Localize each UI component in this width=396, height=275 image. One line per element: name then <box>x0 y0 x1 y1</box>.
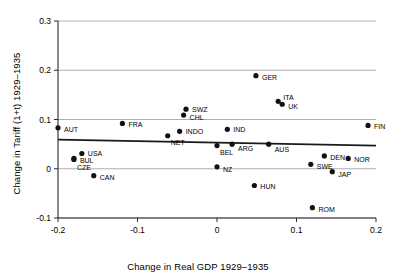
data-point-marker <box>214 164 219 169</box>
x-tick-label: 0.2 <box>370 225 382 235</box>
data-point-marker <box>183 107 188 112</box>
data-point-label: CZE <box>77 164 91 171</box>
data-point-marker <box>252 183 257 188</box>
x-tick-label: -0.2 <box>51 225 66 235</box>
data-point-label: NZ <box>223 166 233 173</box>
data-point-marker <box>230 142 235 147</box>
data-point-marker <box>91 173 96 178</box>
data-point-label: NOR <box>354 156 370 163</box>
data-point-marker <box>165 133 170 138</box>
y-tick-label: -0.1 <box>36 213 51 223</box>
data-point-label: FRA <box>128 121 142 128</box>
data-point-marker <box>365 123 370 128</box>
data-point-label: ARG <box>238 145 253 152</box>
data-point-marker <box>71 157 76 162</box>
data-point-marker <box>266 142 271 147</box>
data-point-label: JAP <box>338 171 351 178</box>
data-point-label: IND <box>233 126 245 133</box>
data-point-label: GER <box>262 74 277 81</box>
data-point-marker <box>181 112 186 117</box>
data-point-marker <box>308 162 313 167</box>
x-tick-label: 0 <box>215 225 220 235</box>
data-point-marker <box>214 143 219 148</box>
data-point-marker <box>120 121 125 126</box>
data-point-label: ROM <box>318 206 335 213</box>
data-point-marker <box>322 153 327 158</box>
x-tick-label: -0.1 <box>130 225 145 235</box>
data-point-marker <box>346 156 351 161</box>
data-point-label: DEN <box>330 154 345 161</box>
x-axis-title: Change in Real GDP 1929–1935 <box>0 261 396 272</box>
y-tick-label: 0 <box>46 164 51 174</box>
data-point-label: SWZ <box>192 106 208 113</box>
x-tick-label: 0.1 <box>291 225 303 235</box>
data-point-marker <box>55 125 60 130</box>
data-point-label: AUS <box>275 146 290 153</box>
y-tick-label: 0.2 <box>39 65 51 75</box>
data-point-label: ITA <box>283 94 294 101</box>
data-point-label: FIN <box>374 123 385 130</box>
data-point-marker <box>177 129 182 134</box>
data-point-label: UK <box>288 103 298 110</box>
data-point-marker <box>280 102 285 107</box>
data-point-label: BEL <box>220 149 233 156</box>
data-point-label: SWE <box>317 163 333 170</box>
data-point-label: NET <box>171 139 186 146</box>
data-point-label: CHL <box>190 114 204 121</box>
y-tick-label: 0.1 <box>39 115 51 125</box>
data-point-label: AUT <box>64 126 79 133</box>
scatter-chart: -0.100.10.20.3-0.2-0.100.10.2 AUTFRAUSAB… <box>0 0 396 275</box>
data-point-marker <box>253 73 258 78</box>
data-point-label: BUL <box>80 157 94 164</box>
data-point-label: CAN <box>100 174 115 181</box>
data-point-label: INDO <box>186 128 204 135</box>
plot-area: -0.100.10.20.3-0.2-0.100.10.2 AUTFRAUSAB… <box>0 0 396 275</box>
gridlines <box>58 21 376 218</box>
data-point-marker <box>310 205 315 210</box>
data-point-marker <box>79 151 84 156</box>
data-point-marker <box>330 169 335 174</box>
axis-ticks: -0.100.10.20.3-0.2-0.100.10.2 <box>36 16 382 235</box>
data-point-marker <box>225 127 230 132</box>
y-axis-title: Change in Tariff (1+t) 1929–1935 <box>11 44 22 204</box>
y-tick-label: 0.3 <box>39 16 51 26</box>
data-point-label: HUN <box>260 183 275 190</box>
